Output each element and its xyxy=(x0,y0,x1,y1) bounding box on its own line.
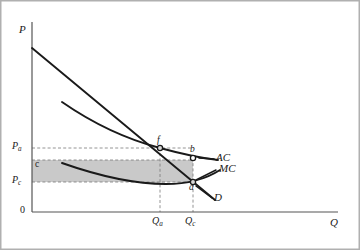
y-axis-label: P xyxy=(19,24,26,35)
point-label-a: a xyxy=(189,183,194,193)
cost-level-label-c: c xyxy=(35,160,39,170)
leader-line-ac xyxy=(199,158,214,159)
point-f-marker xyxy=(157,145,162,150)
curve-label-mc: MC xyxy=(219,163,236,174)
point-label-f: f xyxy=(157,136,160,146)
point-label-b: b xyxy=(190,145,195,155)
curve-label-d: D xyxy=(214,192,222,203)
y-tick-pa: Pa xyxy=(12,141,22,153)
origin-label: 0 xyxy=(20,205,25,215)
x-tick-qa: Qa xyxy=(152,216,163,228)
figure-canvas xyxy=(0,0,360,250)
point-b-marker xyxy=(190,155,195,160)
shaded-loss-region xyxy=(32,160,193,182)
x-tick-qc: Qc xyxy=(185,216,195,228)
y-tick-pc: Pc xyxy=(12,175,21,187)
economics-figure: P Q 0 Pa Pc c Qa Qc f b a AC MC D xyxy=(0,0,360,250)
x-axis-label: Q xyxy=(330,217,338,228)
